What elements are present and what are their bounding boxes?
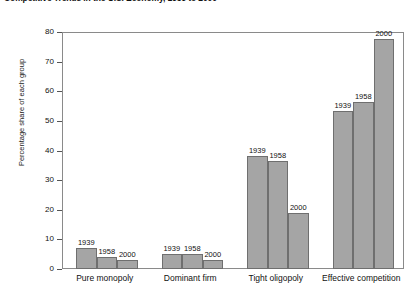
bar xyxy=(203,260,224,269)
y-tick-label: 50 xyxy=(32,116,54,125)
bar-value-label: 2000 xyxy=(285,203,312,212)
bar-value-label: 2000 xyxy=(114,250,141,259)
bar xyxy=(288,213,309,269)
bar-value-label: 1958 xyxy=(265,151,292,160)
bar-value-label: 1939 xyxy=(73,238,100,247)
y-tick-label: 80 xyxy=(32,27,54,36)
bar xyxy=(353,102,374,269)
y-tick-label: 40 xyxy=(32,146,54,155)
y-tick-label: 20 xyxy=(32,205,54,214)
bar-value-label: 1939 xyxy=(330,101,357,110)
y-axis-title: Percentage share of each group xyxy=(17,23,26,203)
y-tick-label: 10 xyxy=(32,234,54,243)
bar xyxy=(374,39,395,269)
bars-layer xyxy=(62,32,404,269)
chart-title: Competitive Trends in the U.S. Economy, … xyxy=(4,0,217,3)
y-tick-label: 60 xyxy=(32,86,54,95)
y-tick-label: 0 xyxy=(32,264,54,273)
y-tick-label: 70 xyxy=(32,57,54,66)
bar xyxy=(247,156,268,269)
bar-value-label: 1958 xyxy=(350,92,377,101)
bar xyxy=(162,254,183,269)
bar-value-label: 2000 xyxy=(200,250,227,259)
bar xyxy=(117,260,138,269)
bar xyxy=(333,111,354,269)
x-axis-label: Effective competition xyxy=(307,273,416,283)
bar-chart: Competitive Trends in the U.S. Economy, … xyxy=(0,0,416,297)
y-tick-mark xyxy=(57,269,62,270)
y-tick-label: 30 xyxy=(32,175,54,184)
bar-value-label: 2000 xyxy=(371,29,398,38)
bar xyxy=(268,161,289,269)
